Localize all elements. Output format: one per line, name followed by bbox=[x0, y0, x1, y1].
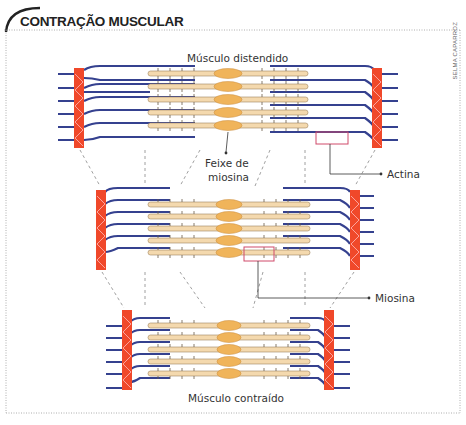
label-actin: Actina bbox=[387, 168, 420, 180]
z-band-right bbox=[372, 68, 382, 148]
z-band-right bbox=[350, 190, 360, 270]
z-band-left bbox=[122, 310, 132, 390]
label-stretched-muscle: Músculo distendido bbox=[187, 52, 288, 64]
myosin-filaments bbox=[148, 68, 308, 131]
label-contracted-muscle: Músculo contraído bbox=[188, 392, 284, 404]
muscle-contraction-diagram: Músculo distendido Feixe de miosina Acti… bbox=[0, 0, 466, 425]
label-myosin-bundle-2: miosina bbox=[208, 171, 249, 183]
title-hook bbox=[6, 8, 40, 32]
label-myosin-bundle-1: Feixe de bbox=[205, 157, 249, 169]
z-band-right bbox=[324, 310, 334, 390]
myosin-pointer-dot bbox=[368, 297, 371, 300]
sarcomere-contracted bbox=[106, 310, 350, 390]
actin-pointer-dot bbox=[380, 173, 383, 176]
z-band-left bbox=[74, 68, 84, 148]
actin-highlight-box bbox=[316, 132, 348, 144]
z-band-left bbox=[96, 190, 106, 270]
sarcomere-intermediate bbox=[96, 188, 374, 270]
label-myosin: Miosina bbox=[375, 292, 415, 304]
